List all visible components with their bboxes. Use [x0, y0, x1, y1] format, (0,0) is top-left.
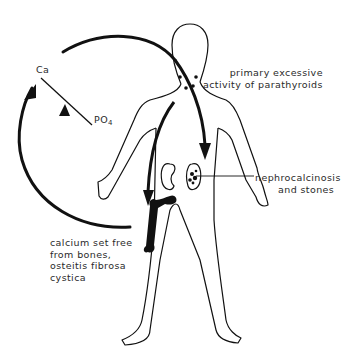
- parathyroids-caption: primary excessive activity of parathyroi…: [203, 67, 323, 90]
- ca-po4-balance-line: [41, 78, 92, 125]
- left-kidney: [161, 164, 175, 190]
- nephro-caption-line2: and stones: [278, 184, 334, 196]
- parathyroids-caption-line2: activity of parathyroids: [203, 79, 323, 91]
- ca-label: Ca: [36, 64, 49, 76]
- shoulder-to-bone-arrow: [143, 102, 174, 206]
- kidney-stones: [188, 170, 197, 185]
- po4-main: PO: [94, 114, 108, 125]
- fulcrum-triangle-icon: [59, 104, 70, 116]
- bones-caption-line2: from bones,: [50, 249, 133, 261]
- parathyroids-caption-line1: primary excessive: [203, 67, 323, 79]
- diagram-canvas: Ca PO4 primary excessive activity of par…: [0, 0, 341, 358]
- bones-caption-line4: cystica: [50, 272, 133, 284]
- nephro-caption-line1: nephrocalcinosis: [255, 172, 341, 184]
- po4-label: PO4: [94, 114, 113, 130]
- bones-caption-line3: osteitis fibrosa: [50, 260, 133, 272]
- bones-caption: calcium set free from bones, osteitis fi…: [50, 237, 133, 283]
- po4-subscript: 4: [108, 119, 113, 127]
- bones-caption-line1: calcium set free: [50, 237, 133, 249]
